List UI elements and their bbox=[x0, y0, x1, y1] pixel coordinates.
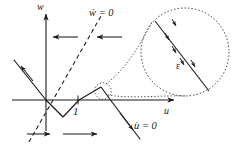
inset-circle bbox=[141, 8, 229, 96]
phase-plane-svg bbox=[0, 0, 232, 150]
axis-label-w: w bbox=[37, 2, 44, 12]
axis-label-u: u bbox=[164, 106, 169, 116]
arrow-on-left-branch bbox=[21, 66, 33, 81]
inset-connector-lines bbox=[106, 22, 186, 97]
inset-chord-line bbox=[155, 21, 209, 91]
epsilon-label: ε bbox=[176, 61, 180, 71]
inset-small-arrows bbox=[165, 19, 195, 67]
tick-label-one: 1 bbox=[73, 106, 79, 117]
w-nullcline-curve bbox=[29, 16, 101, 142]
w-nullcline-label: ẇ = 0 bbox=[89, 8, 114, 19]
figure-canvas: w u ẇ = 0 u̇ = 0 1 ε bbox=[0, 0, 232, 150]
u-nullcline-label: u̇ = 0 bbox=[134, 121, 157, 132]
arrow-on-right-branch bbox=[120, 113, 133, 130]
